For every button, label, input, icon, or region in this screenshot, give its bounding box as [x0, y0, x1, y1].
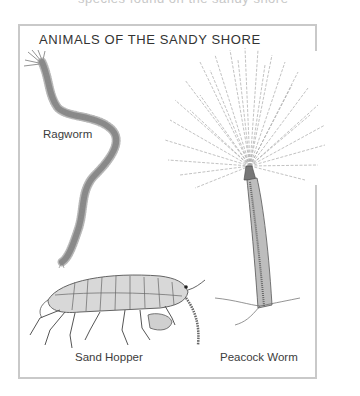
ragworm-label: Ragworm [43, 128, 92, 140]
sand-hopper-illustration [30, 275, 205, 348]
peacock-worm-illustration [165, 48, 325, 325]
peacock-worm-label: Peacock Worm [220, 351, 298, 363]
figure-title: ANIMALS OF THE SANDY SHORE [39, 32, 261, 47]
sand-hopper-label: Sand Hopper [75, 351, 143, 363]
illustration-canvas [0, 0, 360, 396]
ragworm-illustration [24, 50, 116, 268]
